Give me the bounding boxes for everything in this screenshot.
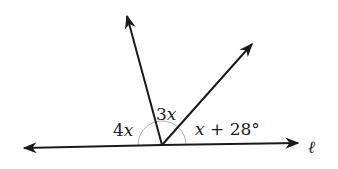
line-label: ℓ xyxy=(308,137,315,157)
angle-label-left: 4x xyxy=(113,120,134,140)
line-l xyxy=(24,145,162,148)
angle-diagram: 4x 3x x + 28° ℓ xyxy=(0,0,338,169)
angle-label-right: x + 28° xyxy=(195,119,260,139)
angle-label-middle: 3x xyxy=(156,104,177,124)
line-l-right xyxy=(162,143,298,145)
